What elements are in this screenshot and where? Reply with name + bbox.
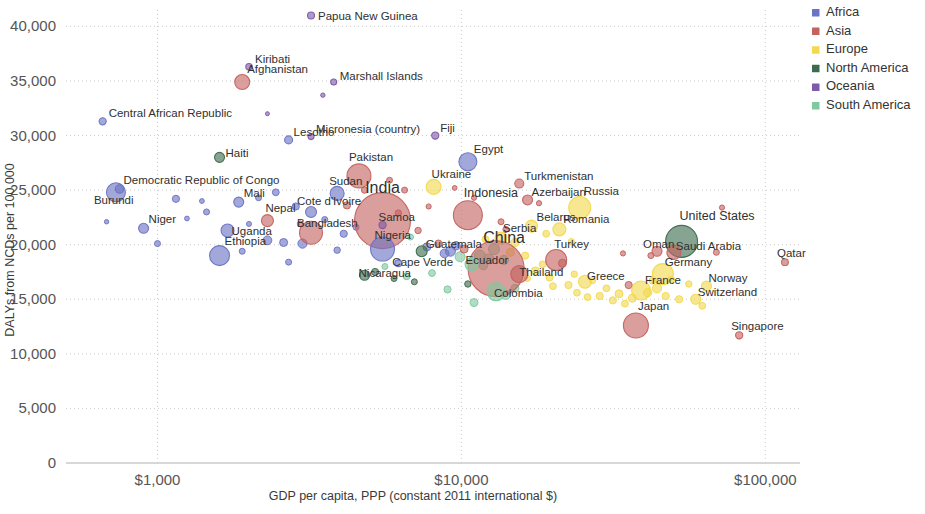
data-bubble[interactable] bbox=[621, 300, 628, 307]
data-bubble[interactable] bbox=[609, 297, 616, 304]
data-bubble[interactable] bbox=[453, 201, 482, 230]
legend-swatch-asia[interactable] bbox=[812, 28, 820, 35]
data-point-label: Marshall Islands bbox=[340, 70, 423, 82]
data-bubble[interactable] bbox=[522, 252, 529, 259]
data-point-label: Qatar bbox=[777, 247, 806, 259]
data-bubble[interactable] bbox=[699, 302, 706, 309]
data-point-label: Nepal bbox=[265, 202, 295, 214]
data-point-label: Guatemala bbox=[426, 238, 483, 250]
data-point-label: Greece bbox=[587, 270, 625, 282]
legend-label-africa[interactable]: Africa bbox=[826, 4, 860, 19]
data-bubble[interactable] bbox=[331, 79, 337, 85]
data-bubble[interactable] bbox=[584, 294, 591, 301]
data-bubble[interactable] bbox=[204, 209, 210, 215]
data-bubble[interactable] bbox=[104, 220, 108, 224]
data-bubble[interactable] bbox=[452, 186, 457, 191]
legend-swatch-south-america[interactable] bbox=[812, 102, 820, 110]
data-bubble[interactable] bbox=[411, 279, 417, 285]
data-bubble[interactable] bbox=[185, 216, 190, 221]
data-bubble[interactable] bbox=[308, 12, 315, 19]
scatter-plot-figure: 05,00010,00015,00020,00025,00030,00035,0… bbox=[0, 0, 925, 514]
data-bubble[interactable] bbox=[415, 227, 421, 233]
data-bubble[interactable] bbox=[139, 223, 149, 233]
data-point-label: Saudi Arabia bbox=[676, 240, 742, 252]
data-bubble[interactable] bbox=[782, 259, 789, 266]
data-point-label: Japan bbox=[638, 300, 669, 312]
data-point-label: Germany bbox=[665, 256, 713, 268]
x-tick-label: $10,000 bbox=[434, 471, 488, 488]
data-point-label: Niger bbox=[149, 213, 177, 225]
data-bubble[interactable] bbox=[623, 313, 648, 338]
data-bubble[interactable] bbox=[334, 247, 340, 253]
data-bubble[interactable] bbox=[620, 251, 625, 256]
data-point-labels: Papua New GuineaKiribatiAfghanistanMarsh… bbox=[94, 10, 806, 332]
data-bubble[interactable] bbox=[625, 281, 632, 288]
data-bubble[interactable] bbox=[215, 152, 225, 162]
legend-swatch-europe[interactable] bbox=[812, 46, 820, 54]
data-bubble[interactable] bbox=[571, 271, 577, 277]
x-tick-label: $100,000 bbox=[734, 471, 797, 488]
data-bubble[interactable] bbox=[596, 292, 603, 299]
data-bubble[interactable] bbox=[200, 199, 205, 204]
x-tick-labels: $1,000$10,000$100,000 bbox=[135, 471, 797, 488]
data-point-label: Thailand bbox=[519, 266, 563, 278]
data-bubble[interactable] bbox=[429, 270, 436, 277]
data-bubble[interactable] bbox=[686, 281, 692, 287]
legend-label-south-america[interactable]: South America bbox=[826, 97, 911, 112]
data-bubble[interactable] bbox=[574, 289, 581, 296]
data-point-label: Cote d'Ivoire bbox=[297, 195, 361, 207]
data-bubble[interactable] bbox=[662, 292, 669, 299]
data-bubble[interactable] bbox=[99, 118, 106, 125]
data-point-label: Mali bbox=[244, 187, 265, 199]
data-bubble[interactable] bbox=[286, 259, 292, 265]
y-tick-label: 5,000 bbox=[18, 399, 56, 416]
data-bubble[interactable] bbox=[235, 75, 250, 90]
data-bubble[interactable] bbox=[265, 112, 269, 116]
data-bubble[interactable] bbox=[603, 285, 610, 292]
legend-label-oceania[interactable]: Oceania bbox=[826, 78, 875, 93]
legend-label-europe[interactable]: Europe bbox=[826, 41, 868, 56]
data-bubble[interactable] bbox=[340, 230, 347, 237]
data-bubble[interactable] bbox=[285, 136, 293, 144]
x-tick-label: $1,000 bbox=[135, 471, 181, 488]
data-point-label: Turkey bbox=[554, 238, 589, 250]
data-bubble[interactable] bbox=[736, 332, 743, 339]
data-bubble[interactable] bbox=[543, 230, 550, 237]
data-point-label: France bbox=[645, 274, 681, 286]
data-bubble[interactable] bbox=[536, 201, 541, 206]
data-point-label: China bbox=[483, 229, 525, 246]
data-bubble[interactable] bbox=[675, 296, 682, 303]
data-bubble[interactable] bbox=[239, 248, 245, 254]
legend[interactable]: AfricaAsiaEuropeNorth AmericaOceaniaSout… bbox=[812, 4, 911, 112]
data-bubble[interactable] bbox=[172, 195, 179, 202]
data-point-label: India bbox=[365, 179, 400, 196]
plot-canvas: 05,00010,00015,00020,00025,00030,00035,0… bbox=[0, 0, 925, 514]
data-point-label: United States bbox=[680, 209, 755, 223]
data-bubble[interactable] bbox=[426, 204, 431, 209]
data-bubble[interactable] bbox=[321, 93, 325, 97]
legend-swatch-africa[interactable] bbox=[812, 9, 820, 17]
data-point-label: Egypt bbox=[474, 143, 504, 155]
data-bubble[interactable] bbox=[272, 189, 279, 196]
legend-label-asia[interactable]: Asia bbox=[826, 23, 852, 38]
legend-label-north-america[interactable]: North America bbox=[826, 60, 909, 75]
data-bubble[interactable] bbox=[470, 299, 478, 307]
data-bubble[interactable] bbox=[210, 246, 230, 266]
data-bubble[interactable] bbox=[465, 281, 471, 287]
data-bubble[interactable] bbox=[234, 197, 244, 207]
data-bubble[interactable] bbox=[154, 241, 160, 247]
data-bubble[interactable] bbox=[615, 290, 623, 298]
data-point-label: Papua New Guinea bbox=[318, 10, 418, 22]
data-bubble[interactable] bbox=[402, 187, 408, 193]
data-point-label: Singapore bbox=[731, 320, 783, 332]
data-bubble[interactable] bbox=[280, 239, 288, 247]
data-bubble[interactable] bbox=[426, 179, 441, 194]
data-bubble[interactable] bbox=[565, 281, 572, 288]
legend-swatch-oceania[interactable] bbox=[812, 83, 820, 91]
data-bubble[interactable] bbox=[444, 286, 451, 293]
legend-swatch-north-america[interactable] bbox=[812, 65, 820, 73]
data-point-label: Nigeria bbox=[375, 229, 412, 241]
data-point-label: Samoa bbox=[379, 211, 416, 223]
data-bubble[interactable] bbox=[550, 283, 557, 290]
data-bubble[interactable] bbox=[432, 132, 439, 139]
